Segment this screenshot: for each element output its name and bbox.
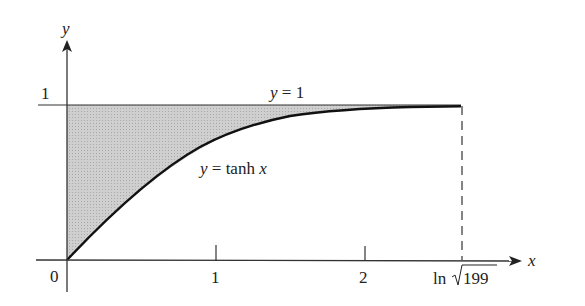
- x-tick-label-1: 1: [211, 268, 220, 287]
- curve-label-tanh: y = tanh x: [198, 159, 267, 178]
- shaded-region: [67, 105, 461, 260]
- line-label-y-equals-1: y = 1: [268, 83, 304, 102]
- x-tick-label-2: 2: [359, 268, 368, 287]
- x-tick-label-ln-sqrt-199: ln 199: [433, 265, 497, 288]
- origin-label: 0: [50, 267, 59, 286]
- svg-text:ln: ln: [433, 269, 447, 288]
- x-axis: [36, 260, 512, 261]
- x-axis-label: x: [527, 251, 536, 270]
- y-axis-label: y: [60, 19, 70, 38]
- tanh-area-diagram: y x 0 1 2 1 ln 199 y = 1 y = tanh x: [0, 0, 585, 306]
- svg-text:199: 199: [463, 269, 489, 288]
- y-tick-label-1: 1: [41, 84, 50, 103]
